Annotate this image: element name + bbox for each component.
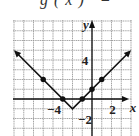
data-point [89, 87, 94, 92]
grid-lines [13, 20, 132, 136]
data-point [60, 96, 65, 101]
x-tick-label: −4 [47, 102, 61, 117]
y-axis-label: y [81, 17, 89, 32]
y-tick-label: 4 [82, 53, 89, 68]
data-point [80, 96, 85, 101]
x-tick-label: 2 [109, 102, 116, 117]
y-tick-label: −2 [78, 112, 92, 127]
x-axis-label: x [129, 100, 137, 115]
x-axis-arrow-icon [122, 96, 129, 102]
coordinate-plane: yx−424−2 [0, 0, 139, 136]
data-point [99, 77, 104, 82]
data-point [41, 77, 46, 82]
